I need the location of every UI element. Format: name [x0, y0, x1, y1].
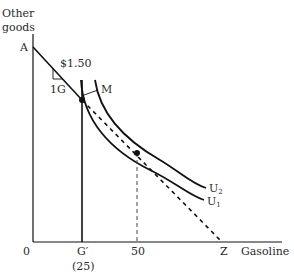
fifty-label: 50 [131, 245, 145, 258]
indifference-curve-u2 [95, 80, 206, 188]
unit-label: 1G [50, 83, 66, 96]
g-prime-label: G′ [77, 245, 89, 258]
g-prime-value-label: (25) [72, 260, 95, 273]
indifference-curve-diagram: Other goods A $1.50 1G M U2 U1 0 G′ (25)… [0, 0, 294, 279]
x-axis-label: Gasoline [241, 245, 289, 258]
u1-label: U1 [207, 195, 221, 209]
m-leader-line [84, 90, 98, 95]
price-label: $1.50 [60, 57, 92, 70]
point-z-label: Z [220, 245, 228, 258]
point-a-label: A [19, 41, 29, 54]
origin-label: 0 [23, 245, 30, 258]
y-axis-label-line2: goods [2, 21, 35, 34]
kink-point [79, 97, 85, 103]
y-axis-label-line1: Other [2, 7, 35, 20]
u2-label: U2 [209, 182, 223, 196]
tangency-point [134, 150, 140, 156]
point-m-label: M [101, 83, 112, 96]
